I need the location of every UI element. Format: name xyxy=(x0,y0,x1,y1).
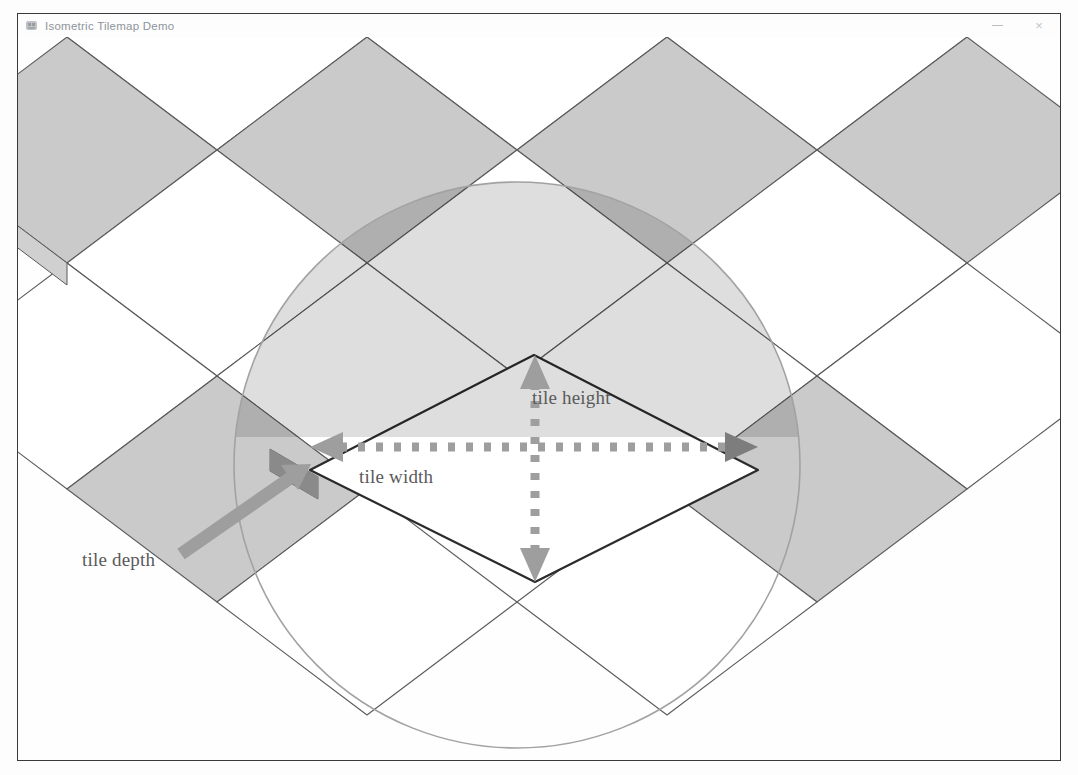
app-logo-icon xyxy=(25,19,38,32)
screenshot-root: Isometric Tilemap Demo × xyxy=(0,0,1078,775)
tile-width-label: tile width xyxy=(359,466,433,488)
tile-height-label: tile height xyxy=(532,387,611,409)
app-window: Isometric Tilemap Demo × xyxy=(17,13,1061,761)
close-icon: × xyxy=(1035,19,1043,32)
isometric-scene: tile height tile width tile depth xyxy=(18,37,1060,760)
window-controls: × xyxy=(976,14,1060,37)
close-button[interactable]: × xyxy=(1018,14,1060,37)
window-title: Isometric Tilemap Demo xyxy=(45,20,174,32)
render-canvas[interactable]: tile height tile width tile depth xyxy=(18,37,1060,760)
title-bar[interactable]: Isometric Tilemap Demo × xyxy=(18,14,1060,37)
minimize-button[interactable] xyxy=(976,14,1018,37)
tile-depth-label: tile depth xyxy=(82,549,155,571)
minimize-icon xyxy=(992,25,1003,26)
